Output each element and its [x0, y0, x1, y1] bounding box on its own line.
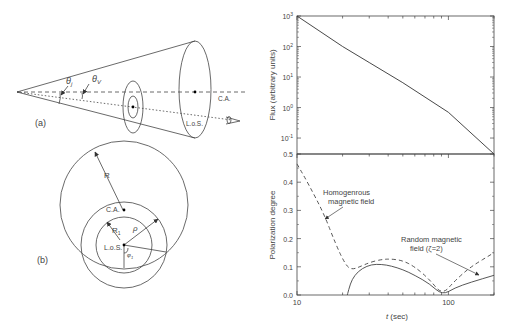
theta-j-arc: [59, 93, 60, 104]
flux-plot-frame: [297, 16, 494, 154]
phi-ray-line: [124, 245, 166, 252]
figure: θj θV C.A. L.o.S. (a) R C.A. R1 ρ L.o.S.…: [0, 0, 511, 325]
phi-label: φ1: [127, 252, 133, 260]
panel-b-tag: (b): [37, 255, 48, 265]
time-x-axis-label: t(sec): [386, 312, 408, 321]
panel-a-labels: θj θV C.A. L.o.S. (a): [35, 74, 231, 128]
random-annotation-arrow: [436, 254, 479, 275]
polarization-y-tick-label: 0.3: [283, 207, 293, 214]
homogeneous-annotation-line1: Homogenrous: [323, 188, 370, 197]
homogeneous-annotation-line2: magnetic field: [328, 197, 374, 206]
polarization-y-tick-label: 0.4: [283, 179, 293, 186]
flux-line: [297, 16, 494, 154]
line-of-sight-label-b: L.o.S.: [104, 244, 122, 251]
panel-b-circle-diagram: [60, 141, 188, 288]
theta-v-pointer: [83, 84, 89, 94]
line-of-sight-label: L.o.S.: [186, 120, 203, 127]
cone-axis-center-dot: [123, 209, 126, 212]
polarization-y-tick-label: 0.0: [283, 292, 293, 299]
panel-a-cone-diagram: [17, 41, 248, 138]
random-annotation-line2: field (ζ=2): [410, 244, 443, 253]
r-label: R: [104, 171, 110, 180]
polarization-chart: 0.00.10.20.30.40.510100: [283, 151, 494, 307]
homogeneous-annotation-arrow: [325, 207, 343, 219]
theta-v-label: θV: [92, 74, 102, 85]
flux-chart: 10310210110010-1: [281, 11, 494, 154]
x-tick-label: 100: [442, 298, 455, 307]
eye-icon: [226, 117, 240, 125]
line-of-sight-dot: [132, 106, 135, 109]
cone-upper-edge: [17, 41, 195, 92]
line-of-sight-center-dot: [123, 244, 126, 247]
cone-axis-label-b: C.A.: [106, 206, 120, 213]
cone-axis-label: C.A.: [218, 95, 231, 102]
r1-label: R1: [112, 226, 121, 236]
theta-j-pointer: [61, 86, 68, 95]
flux-y-tick-label: 101: [282, 72, 293, 81]
homogeneous-field-curve: [297, 164, 494, 291]
flux-y-axis-label: Flux (arbitrary units): [268, 49, 277, 120]
random-field-curve: [347, 264, 494, 295]
r-arrow: [95, 152, 123, 210]
cone-lower-edge: [17, 92, 195, 138]
flux-y-tick-label: 10-1: [281, 133, 293, 142]
polarization-plot-frame: [297, 154, 494, 295]
polarization-y-axis-label: Polarization degree: [268, 190, 277, 259]
flux-y-tick-label: 100: [282, 103, 293, 112]
theta-j-label: θj: [66, 76, 73, 87]
rho-label: ρ: [132, 224, 138, 233]
panel-b-labels: R C.A. R1 ρ L.o.S. φ1 (b): [37, 171, 138, 265]
cone-axis-dot: [194, 91, 197, 94]
theta-v-arc: [82, 93, 83, 99]
polarization-y-tick-label: 0.1: [283, 264, 293, 271]
polarization-y-tick-label: 0.2: [283, 236, 293, 243]
x-tick-label: 10: [293, 298, 301, 307]
polarization-y-tick-label: 0.5: [283, 151, 293, 158]
random-annotation-line1: Random magnetic: [401, 235, 462, 244]
flux-y-tick-label: 103: [282, 11, 293, 20]
line-of-sight-line: [17, 92, 232, 120]
panel-a-tag: (a): [35, 118, 46, 128]
flux-y-tick-label: 102: [282, 42, 293, 51]
